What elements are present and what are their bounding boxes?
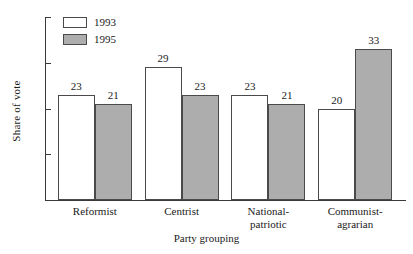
bar-chart-figure: Share of vote 010203040 2321292323212033… xyxy=(0,0,413,254)
bar-group: 2033 xyxy=(318,17,392,200)
bar-1993-reformist: 23 xyxy=(58,95,95,200)
bar-value-label: 23 xyxy=(244,80,255,92)
legend: 1993 1995 xyxy=(63,15,116,49)
category-label-line: Communist- xyxy=(300,205,410,218)
legend-label-1993: 1993 xyxy=(94,16,116,28)
bar-1993-national-patriotic: 23 xyxy=(231,95,268,200)
legend-label-1995: 1995 xyxy=(94,33,116,45)
bar-1995-reformist: 21 xyxy=(95,104,132,200)
x-axis-line xyxy=(45,200,406,201)
bar-group: 2321 xyxy=(231,17,305,200)
legend-item-1995: 1995 xyxy=(63,32,116,46)
bar-value-label: 21 xyxy=(108,89,119,101)
legend-swatch-1995 xyxy=(63,34,87,45)
bar-1995-centrist: 23 xyxy=(182,95,219,200)
y-tick-mark xyxy=(46,200,51,201)
bar-group: 2923 xyxy=(145,17,219,200)
bar-value-label: 29 xyxy=(158,52,169,64)
bar-value-label: 21 xyxy=(281,89,292,101)
legend-swatch-1993 xyxy=(63,17,87,28)
bar-value-label: 33 xyxy=(368,34,379,46)
category-label-line: agrarian xyxy=(300,218,410,231)
bar-1993-communist-agrarian: 20 xyxy=(318,109,355,201)
legend-item-1993: 1993 xyxy=(63,15,116,29)
category-label-communist-agrarian: Communist-agrarian xyxy=(300,205,410,230)
bar-value-label: 20 xyxy=(331,94,342,106)
bar-value-label: 23 xyxy=(71,80,82,92)
bar-1993-centrist: 29 xyxy=(145,67,182,200)
bar-1995-communist-agrarian: 33 xyxy=(355,49,392,200)
y-axis-title: Share of vote xyxy=(10,56,22,166)
x-axis-title: Party grouping xyxy=(0,232,413,244)
bar-value-label: 23 xyxy=(195,80,206,92)
bar-1995-national-patriotic: 21 xyxy=(268,104,305,200)
